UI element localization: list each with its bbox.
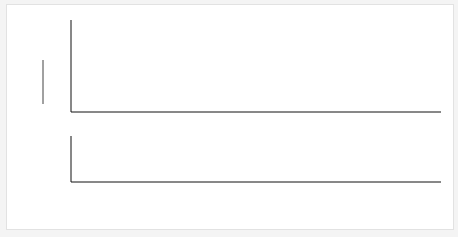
chart-canvas	[0, 0, 458, 237]
